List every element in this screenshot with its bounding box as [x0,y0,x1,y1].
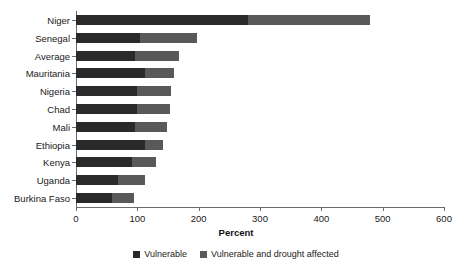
bar-segment [118,175,145,185]
x-axis-tick-label: 100 [129,213,145,224]
legend-item: Vulnerable and drought affected [200,249,339,259]
bar-segment [76,33,140,43]
bar-segment [248,15,371,25]
bar-segment [145,68,174,78]
bar-segment [76,15,248,25]
bar-segment [112,193,134,203]
y-axis-category-label: Chad [0,104,70,115]
bar-segment [76,175,118,185]
legend-swatch-vulnerable [133,251,140,258]
y-axis-category-label: Mali [0,121,70,132]
x-axis-tick [76,207,77,211]
bar-segment [145,140,163,150]
x-axis-tick [383,207,384,211]
y-axis-category-label: Nigeria [0,86,70,97]
bar-segment [76,68,145,78]
legend-label: Vulnerable [144,249,187,259]
bar-segment [135,122,166,132]
y-axis-category-label: Burkina Faso [0,193,70,204]
legend-swatch-drought-affected [200,251,207,258]
x-axis-title: Percent [0,227,472,238]
y-axis-category-label: Niger [0,14,70,25]
bar-segment [135,51,179,61]
x-axis-tick-label: 0 [73,213,78,224]
bar-segment [137,104,170,114]
x-axis-tick [199,207,200,211]
x-axis-tick-label: 500 [375,213,391,224]
bar-segment [137,86,171,96]
bar-segment [76,51,135,61]
chart-legend: VulnerableVulnerable and drought affecte… [0,249,472,259]
bar-segment [76,140,145,150]
bar-segment [76,86,137,96]
legend-item: Vulnerable [133,249,187,259]
bar-segment [76,122,135,132]
legend-label: Vulnerable and drought affected [211,249,339,259]
cropped-title-sliver [0,0,472,8]
x-axis-tick [137,207,138,211]
y-axis-category-label: Senegal [0,32,70,43]
bar-chart: 0100200300400500600 Percent VulnerableVu… [0,0,472,268]
y-axis-category-label: Ethiopia [0,139,70,150]
x-axis-tick [260,207,261,211]
x-axis-tick-label: 300 [252,213,268,224]
bar-segment [76,157,132,167]
bar-segment [132,157,155,167]
bar-segment [140,33,197,43]
y-axis-category-label: Kenya [0,157,70,168]
y-axis-category-label: Uganda [0,175,70,186]
plot-area: 0100200300400500600 [76,11,444,207]
x-axis-tick-label: 400 [313,213,329,224]
x-axis-tick [321,207,322,211]
bar-segment [76,104,137,114]
x-axis-tick [444,207,445,211]
x-axis-tick-label: 200 [191,213,207,224]
bar-segment [76,193,112,203]
y-axis-category-label: Mauritania [0,68,70,79]
y-axis-category-label: Average [0,50,70,61]
x-axis-tick-label: 600 [436,213,452,224]
